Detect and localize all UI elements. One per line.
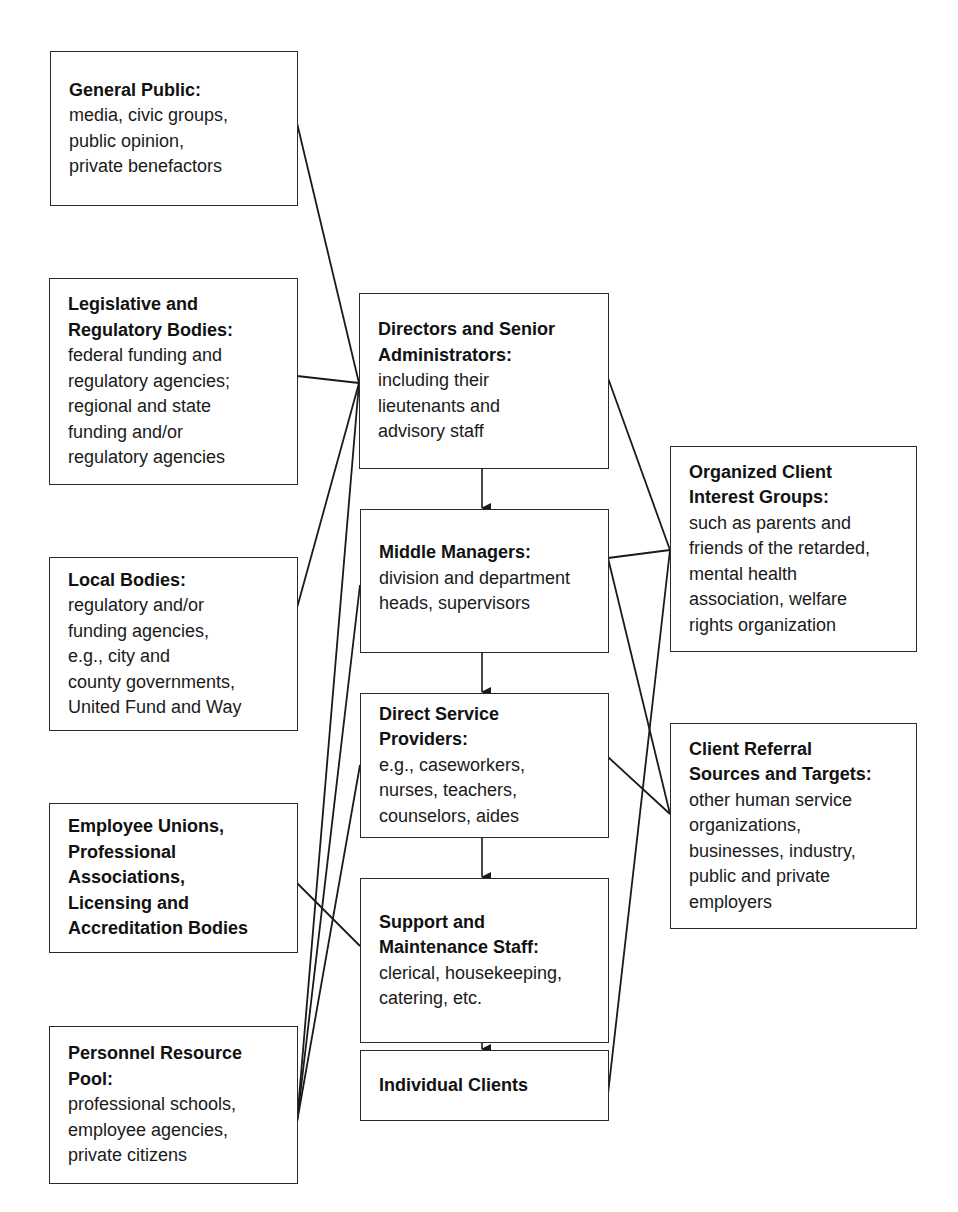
line-legislative-directors [297,376,359,383]
box-title: Legislative and Regulatory Bodies: [68,292,287,343]
line-general-public-directors [297,123,359,383]
box-title: Directors and Senior Administrators: [378,317,598,368]
box-title: Direct Service Providers: [379,702,598,753]
box-middle-managers: Middle Managers: division and department… [360,509,609,653]
line-direct-referral [608,757,670,814]
box-direct-service: Direct Service Providers: e.g., casework… [360,693,609,838]
box-client-referral: Client Referral Sources and Targets: oth… [670,723,917,929]
line-personnel-direct-service [297,765,360,1122]
box-title: Individual Clients [379,1073,598,1099]
box-body: other human service organizations, busin… [689,788,906,916]
box-organized-client: Organized Client Interest Groups: such a… [670,446,917,652]
line-employee-unions-support [297,883,360,946]
line-personnel-middle-managers [297,585,360,1122]
box-title: Client Referral Sources and Targets: [689,737,906,788]
box-body: including their lieutenants and advisory… [378,368,598,445]
box-general-public: General Public: media, civic groups, pub… [50,51,298,206]
box-title: Middle Managers: [379,540,598,566]
box-body: clerical, housekeeping, catering, etc. [379,961,598,1012]
box-local-bodies: Local Bodies: regulatory and/or funding … [49,557,298,731]
line-clients-organized [608,550,670,1094]
box-title: Support and Maintenance Staff: [379,910,598,961]
box-title: Personnel Resource Pool: [68,1041,287,1092]
box-legislative: Legislative and Regulatory Bodies: feder… [49,278,298,485]
line-local-bodies-directors [297,383,359,608]
box-body: professional schools, employee agencies,… [68,1092,287,1169]
line-personnel-directors [297,383,359,1122]
box-directors: Directors and Senior Administrators: inc… [359,293,609,469]
box-personnel-pool: Personnel Resource Pool: professional sc… [49,1026,298,1184]
box-body: federal funding and regulatory agencies;… [68,343,287,471]
box-title: Employee Unions, Professional Associatio… [68,814,287,942]
box-body: e.g., caseworkers, nurses, teachers, cou… [379,753,598,830]
box-title: Organized Client Interest Groups: [689,460,906,511]
box-title: General Public: [69,78,287,104]
box-title: Local Bodies: [68,568,287,594]
box-body: media, civic groups, public opinion, pri… [69,103,287,180]
box-body: regulatory and/or funding agencies, e.g.… [68,593,287,721]
line-middle-referral [608,558,670,814]
box-employee-unions: Employee Unions, Professional Associatio… [49,803,298,953]
box-support-staff: Support and Maintenance Staff: clerical,… [360,878,609,1043]
line-directors-organized [608,378,670,550]
box-body: such as parents and friends of the retar… [689,511,906,639]
box-individual-clients: Individual Clients [360,1050,609,1121]
box-body: division and department heads, superviso… [379,566,598,617]
line-middle-organized [608,550,670,558]
